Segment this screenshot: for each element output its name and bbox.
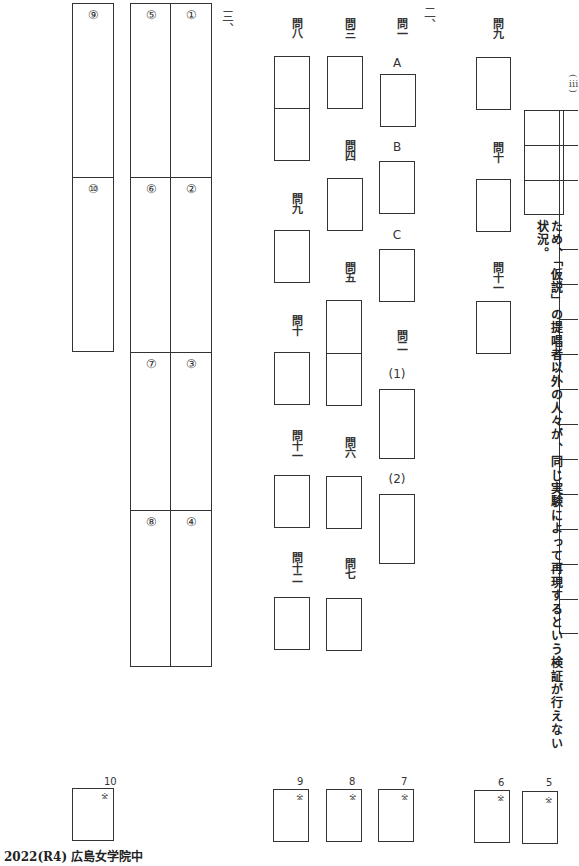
q8-label: 問八 [282,18,302,38]
score-7-mark: ※ [401,792,409,802]
score-5-mark: ※ [545,795,553,805]
q12-label: 問十二 [282,552,302,582]
writing-grid-header-cells [524,110,564,215]
q2-1-answer-box[interactable] [379,389,415,459]
q3-label: 問三 [335,18,355,38]
score-6-number: 6 [498,777,504,788]
s1-q9-answer-box[interactable] [476,57,511,110]
s1-q10-answer-box[interactable] [476,179,511,232]
answer-cell-3[interactable] [171,373,211,509]
answer-cell-6[interactable] [131,198,169,350]
cell-4-label: ④ [176,515,206,529]
q9-label: 問九 [282,193,302,213]
q11-answer-box[interactable] [274,475,310,528]
q10-answer-box[interactable] [274,352,310,405]
cell-5-label: ⑤ [136,8,166,22]
score-10-number: 10 [104,776,117,787]
q9-answer-box[interactable] [274,230,310,283]
answer-cell-10[interactable] [73,198,113,350]
q1-b-label: B [379,140,415,154]
cell-2-label: ② [176,182,206,196]
q7-answer-box[interactable] [326,598,362,651]
q11-label: 問十一 [282,430,302,460]
s1-q10-label: 問十 [483,142,503,162]
q4-label: 問四 [335,140,355,160]
writing-grid-answer-area[interactable] [560,111,578,633]
score-6-mark: ※ [497,793,505,803]
q1-c-answer-box[interactable] [379,249,415,302]
footer-school-year: 2022(R4) 広島女学院中 [4,847,143,864]
q2-2-label: (2) [379,472,415,486]
score-9-number: 9 [297,776,303,787]
q2-1-label: (1) [379,367,415,381]
q2-label: 問二 [387,330,407,350]
answer-cell-1[interactable] [171,24,211,176]
answer-cell-2[interactable] [171,198,211,350]
q12-answer-box[interactable] [274,597,310,650]
score-10-mark: ※ [101,791,109,801]
q1-label: 問一 [387,18,407,38]
cell-6-label: ⑥ [136,182,166,196]
s1-partial-label: (ⅲ) [568,74,579,93]
cell-8-label: ⑧ [136,515,166,529]
answer-cell-4[interactable] [171,531,211,666]
q7-label: 問七 [335,558,355,578]
cell-7-label: ⑦ [136,357,166,371]
q1-a-label: A [379,56,415,70]
printed-answer-text: ため、「仮説」の提唱者以外の人々が、同じ実験によって再現するという検証が行えない… [534,220,562,760]
section-2-label: 二、 [420,6,437,30]
cell-10-label: ⑩ [78,182,108,196]
q6-answer-box[interactable] [326,476,362,529]
answer-cell-7[interactable] [131,373,169,509]
answer-cell-5[interactable] [131,24,169,176]
q1-b-answer-box[interactable] [379,161,415,214]
s1-q9-label: 問九 [483,18,503,38]
q4-answer-box[interactable] [327,178,363,231]
q2-2-answer-box[interactable] [379,494,415,564]
q1-c-label: C [379,228,415,242]
cell-9-label: ⑨ [78,8,108,22]
s1-q11-answer-box[interactable] [476,301,511,354]
score-9-mark: ※ [296,792,304,802]
q3-answer-box[interactable] [327,56,363,109]
q1-a-answer-box[interactable] [380,74,416,127]
score-8-mark: ※ [349,792,357,802]
q6-label: 問六 [335,437,355,457]
score-5-number: 5 [546,777,552,788]
score-7-number: 7 [401,776,407,787]
cell-3-label: ③ [176,357,206,371]
cell-1-label: ① [176,8,206,22]
score-8-number: 8 [349,776,355,787]
answer-cell-8[interactable] [131,531,169,666]
s1-q11-label: 問十一 [483,262,503,292]
q10-label: 問十 [282,315,302,335]
q5-label: 問五 [335,262,355,282]
section-3-label: 三、 [218,10,235,34]
answer-cell-9[interactable] [73,24,113,176]
